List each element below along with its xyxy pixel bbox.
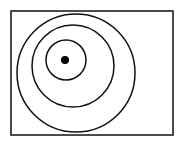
diagram-canvas — [0, 0, 181, 145]
center-dot — [61, 56, 69, 64]
middle-circle — [32, 25, 114, 107]
outer-circle — [17, 14, 135, 132]
